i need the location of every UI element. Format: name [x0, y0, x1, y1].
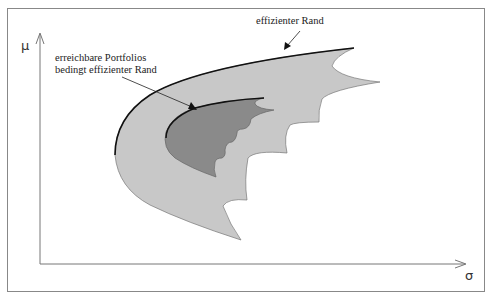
- outer-attainable-region: [115, 48, 380, 240]
- y-axis-label: μ: [21, 38, 29, 53]
- x-axis-label: σ: [465, 268, 473, 283]
- conditional-frontier-label: bedingt effizienter Rand: [55, 64, 157, 76]
- attainable-portfolios-label: erreichbare Portfolios: [55, 52, 146, 64]
- efficient-frontier-label: effizienter Rand: [256, 15, 324, 27]
- efficient-frontier-pointer: [287, 31, 300, 46]
- diagram-canvas: [0, 0, 490, 296]
